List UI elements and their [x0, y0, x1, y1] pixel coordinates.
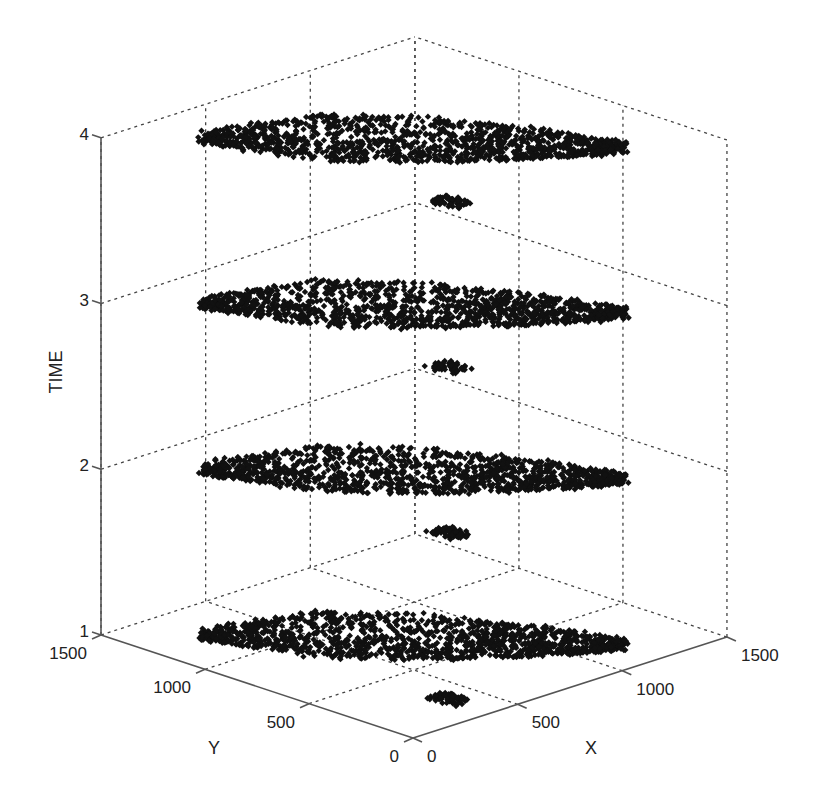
- grid-line-horizontal: [101, 368, 415, 469]
- z-tick: [92, 466, 101, 469]
- y-tick-label: 0: [390, 747, 399, 766]
- scatter-layer-time-2: [196, 441, 632, 543]
- scatter-layer-time-3: [197, 276, 632, 377]
- y-axis-label: Y: [208, 738, 220, 758]
- scatter-points: [195, 111, 632, 709]
- scatter-layer-time-1: [196, 607, 630, 709]
- x-tick: [413, 738, 422, 742]
- z-tick: [92, 301, 101, 304]
- scatter-layer-time-4: [195, 111, 630, 211]
- x-tick: [518, 704, 527, 708]
- x-tick-label: 1500: [741, 646, 779, 665]
- y-tick: [92, 635, 101, 639]
- z-axis-label: TIME: [46, 351, 66, 394]
- z-tick-label: 2: [80, 456, 89, 475]
- x-tick-label: 0: [427, 747, 436, 766]
- x-tick-label: 500: [532, 713, 560, 732]
- x-tick: [727, 637, 736, 641]
- y-tick-label: 1000: [153, 678, 191, 697]
- z-tick-label: 3: [80, 291, 89, 310]
- tick-labels: 1234050010001500050010001500: [49, 125, 779, 766]
- grid-line-horizontal: [415, 203, 727, 306]
- y-tick-label: 1500: [49, 644, 87, 663]
- x-axis-label: X: [585, 738, 597, 758]
- z-tick-label: 1: [80, 622, 89, 641]
- 3d-scatter-chart: 1234050010001500050010001500 TIME Y X: [0, 0, 823, 796]
- x-tick-label: 1000: [636, 680, 674, 699]
- z-tick: [92, 632, 101, 635]
- grid-lines: [101, 37, 727, 704]
- z-tick-label: 4: [80, 125, 89, 144]
- y-tick: [300, 704, 309, 708]
- z-tick: [92, 135, 101, 138]
- x-tick: [622, 671, 631, 675]
- y-tick-label: 500: [267, 713, 295, 732]
- y-tick: [196, 669, 205, 673]
- y-tick: [404, 738, 413, 742]
